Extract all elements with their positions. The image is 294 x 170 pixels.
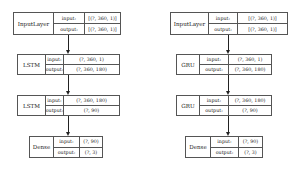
layer-name: InputLayer [171, 13, 209, 34]
lstm-model-lstm2-node: LSTM input: output: (?, 360, 180) (?, 90… [17, 95, 120, 116]
layer-name: Dense [30, 137, 54, 157]
layer-name: GRU [177, 55, 200, 74]
lstm-model-lstm1-node: LSTM input: output: (?, 360, 1) (?, 360,… [17, 54, 120, 75]
input-key: input: [46, 96, 63, 106]
output-shape: (?, 90) [64, 106, 119, 115]
input-shape: (?, 360, 1) [229, 55, 271, 65]
output-key: output: [54, 24, 84, 34]
lstm-model-inputlayer-node: InputLayer input: output: [(?, 360, 1)] … [13, 12, 121, 35]
output-key: output: [46, 65, 63, 74]
edge-arrow [68, 116, 69, 132]
output-key: output: [200, 106, 228, 115]
input-key: input: [46, 55, 63, 65]
lstm-model-dense-node: Dense input: output: (?, 90) (?, 3) [29, 136, 103, 158]
gru-model-gru1-node: GRU input: output: (?, 360, 1) (?, 360, … [176, 54, 272, 75]
output-shape: (?, 360, 180) [64, 65, 119, 74]
input-key: input: [211, 137, 238, 148]
output-shape: (?, 360, 180) [229, 65, 271, 74]
output-shape: [(?, 360, 1)] [85, 24, 120, 34]
input-key: input: [200, 96, 228, 106]
layer-name: LSTM [18, 96, 46, 115]
output-key: output: [200, 65, 228, 74]
layer-name: GRU [177, 96, 200, 115]
gru-model-inputlayer-node: InputLayer input: output: [(?, 360, 1)] … [170, 12, 288, 35]
edge-arrow [228, 75, 229, 91]
output-key: output: [54, 148, 79, 158]
edge-arrow [68, 35, 69, 50]
output-shape: (?, 3) [80, 148, 102, 158]
input-key: input: [200, 55, 228, 65]
input-shape: (?, 360, 180) [229, 96, 271, 106]
input-key: input: [54, 137, 79, 148]
output-key: output: [211, 148, 238, 158]
layer-name: InputLayer [14, 13, 54, 34]
output-shape: (?, 3) [239, 148, 262, 158]
layer-name: Dense [186, 137, 211, 157]
output-key: output: [46, 106, 63, 115]
input-shape: (?, 360, 180) [64, 96, 119, 106]
input-key: input: [54, 13, 84, 24]
input-shape: (?, 360, 1) [64, 55, 119, 65]
input-shape: (?, 90) [239, 137, 262, 148]
input-key: input: [209, 13, 237, 24]
layer-name: LSTM [18, 55, 46, 74]
input-shape: [(?, 360, 1)] [238, 13, 287, 24]
input-shape: (?, 90) [80, 137, 102, 148]
output-shape: [(?, 360, 1)] [238, 24, 287, 34]
edge-arrow [68, 75, 69, 91]
input-shape: [(?, 360, 1)] [85, 13, 120, 24]
output-key: output: [209, 24, 237, 34]
edge-arrow [228, 116, 229, 132]
output-shape: (?, 90) [229, 106, 271, 115]
edge-arrow [228, 35, 229, 50]
gru-model-gru2-node: GRU input: output: (?, 360, 180) (?, 90) [176, 95, 272, 116]
gru-model-dense-node: Dense input: output: (?, 90) (?, 3) [185, 136, 263, 158]
